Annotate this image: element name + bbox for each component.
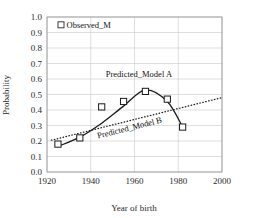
chart-legend: Observed_M [58,20,111,30]
gridlines [47,17,222,172]
svg-text:1980: 1980 [169,176,188,186]
svg-text:1920: 1920 [38,176,57,186]
svg-text:0.8: 0.8 [31,43,43,53]
svg-text:0.4: 0.4 [31,105,43,115]
x-axis-title: Year of birth [111,203,157,213]
svg-text:Observed_M: Observed_M [67,20,112,30]
series-predicted-model-b [51,98,222,141]
y-axis-title: Probability [1,75,11,115]
svg-text:0.2: 0.2 [31,136,42,146]
svg-text:1.0: 1.0 [31,12,43,22]
svg-text:0.1: 0.1 [31,152,42,162]
svg-text:Predicted_Model B: Predicted_Model B [96,115,163,141]
svg-text:1940: 1940 [82,176,101,186]
svg-text:0.3: 0.3 [31,121,43,131]
svg-text:0.6: 0.6 [31,74,43,84]
series-observed-markers [55,88,186,147]
svg-text:0.9: 0.9 [31,28,43,38]
svg-text:Predicted_Model A: Predicted_Model A [106,69,173,79]
x-tick-labels: 19201940196019802000 [38,176,232,186]
svg-text:1960: 1960 [126,176,145,186]
svg-text:2000: 2000 [213,176,232,186]
chart-plot-area: 0.00.10.20.30.40.50.60.70.80.91.0 192019… [0,0,256,218]
svg-text:0.7: 0.7 [31,59,43,69]
y-tick-labels: 0.00.10.20.30.40.50.60.70.80.91.0 [31,12,43,177]
svg-text:0.5: 0.5 [31,90,43,100]
chart-figure: 0.00.10.20.30.40.50.60.70.80.91.0 192019… [0,0,256,218]
